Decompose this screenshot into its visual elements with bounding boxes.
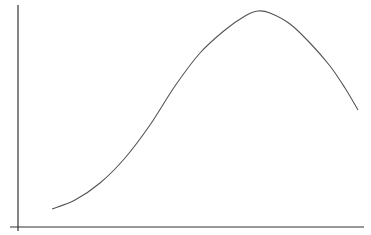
data-curve: [52, 11, 358, 209]
line-chart: [0, 0, 371, 235]
